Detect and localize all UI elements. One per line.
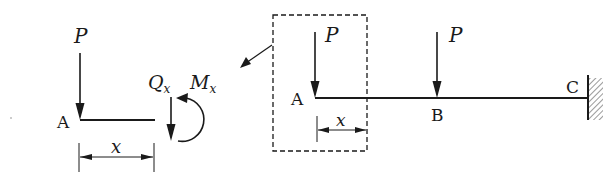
cantilever-beam: P A P B C x [290,23,603,142]
dimension-label: x [111,136,121,157]
load-a-label: P [324,23,339,47]
moment-label: Mx [189,71,216,96]
stray-dot [10,117,12,119]
fixed-support-hatch-icon [589,78,603,120]
moment-arc-icon [176,93,204,141]
load-p-label: P [73,24,88,48]
point-a-label: A [56,112,70,132]
load-a-arrow-icon [311,32,320,98]
point-b-label: B [431,105,444,125]
beam-diagram: P A Qx Mx x [0,0,606,182]
load-b-label: P [448,23,463,47]
dimension-label: x [336,110,346,130]
load-arrow-icon [76,53,85,120]
point-a-label: A [290,89,304,109]
free-body-diagram: P A Qx Mx x [56,24,216,172]
dimension-x: x [79,136,154,172]
dimension-x-beam: x [317,110,366,142]
load-b-arrow-icon [433,32,442,98]
shear-arrow-icon [167,97,176,141]
point-c-label: C [566,77,579,97]
shear-label: Qx [148,71,171,96]
pointer-arrow-icon [240,45,272,68]
section-box [273,15,367,151]
